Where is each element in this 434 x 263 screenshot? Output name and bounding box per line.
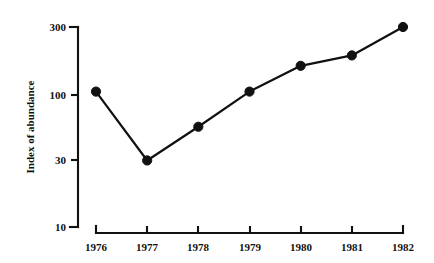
x-tick-label-1982: 1982 bbox=[392, 241, 415, 253]
y-tick-label-10: 10 bbox=[55, 221, 67, 233]
x-tick-label-1980: 1980 bbox=[290, 241, 313, 253]
y-tick-label-30: 30 bbox=[55, 154, 67, 166]
data-point-1980 bbox=[296, 61, 305, 70]
y-tick-label-300: 300 bbox=[50, 21, 67, 33]
data-point-1981 bbox=[347, 51, 356, 60]
chart-figure: 300 100 30 10 Index of abundance 1976 19… bbox=[0, 0, 434, 263]
y-axis-title: Index of abundance bbox=[24, 80, 36, 173]
x-tick-label-1981: 1981 bbox=[341, 241, 363, 253]
data-point-1978 bbox=[194, 122, 203, 131]
data-point-1977 bbox=[143, 156, 152, 165]
x-tick-label-1979: 1979 bbox=[239, 241, 262, 253]
x-tick-label-1976: 1976 bbox=[85, 241, 108, 253]
x-tick-label-1978: 1978 bbox=[187, 241, 210, 253]
data-point-1979 bbox=[245, 87, 254, 96]
data-point-1982 bbox=[398, 22, 407, 31]
x-tick-label-1977: 1977 bbox=[136, 241, 159, 253]
line-chart: 300 100 30 10 Index of abundance 1976 19… bbox=[0, 0, 434, 263]
data-point-1976 bbox=[91, 87, 100, 96]
y-tick-label-100: 100 bbox=[50, 89, 67, 101]
